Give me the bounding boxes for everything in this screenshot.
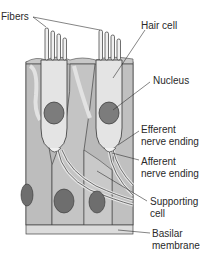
label-supporting-line2: cell bbox=[150, 208, 198, 220]
label-afferent-line1: Afferent bbox=[141, 156, 199, 168]
leader-fibers bbox=[33, 17, 100, 30]
nucleus-hair-right bbox=[99, 102, 119, 124]
label-nucleus: Nucleus bbox=[153, 75, 189, 87]
label-basilar-line1: Basilar bbox=[152, 228, 200, 240]
nucleus-support-1 bbox=[21, 184, 33, 206]
label-fibers: Fibers bbox=[1, 11, 29, 23]
label-hair-cell: Hair cell bbox=[141, 20, 177, 32]
label-basilar-membrane: Basilar membrane bbox=[152, 228, 200, 251]
nucleus-hair-left bbox=[44, 102, 64, 124]
fibers-right bbox=[99, 30, 121, 60]
label-afferent-line2: nerve ending bbox=[141, 168, 199, 180]
label-supporting-cell: Supporting cell bbox=[150, 196, 198, 219]
nucleus-support-3 bbox=[89, 191, 105, 213]
label-efferent-line2: nerve ending bbox=[141, 136, 199, 148]
label-basilar-line2: membrane bbox=[152, 240, 200, 252]
label-efferent-line1: Efferent bbox=[141, 124, 199, 136]
fibers-left bbox=[45, 28, 67, 60]
nucleus-support-2 bbox=[54, 189, 74, 213]
label-afferent: Afferent nerve ending bbox=[141, 156, 199, 179]
label-supporting-line1: Supporting bbox=[150, 196, 198, 208]
label-efferent: Efferent nerve ending bbox=[141, 124, 199, 147]
basilar-membrane bbox=[26, 225, 133, 234]
